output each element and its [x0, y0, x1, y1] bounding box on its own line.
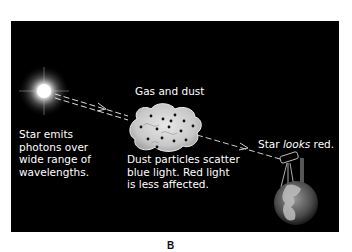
cloud-title: Gas and dust	[135, 85, 204, 98]
diagram-graphics	[11, 21, 339, 232]
earth-icon	[274, 181, 318, 225]
cloud-note-line: blue light. Red light	[127, 166, 240, 179]
diagram-panel: Star emits photons over wide range of wa…	[11, 21, 339, 232]
star-description: Star emits photons over wide range of wa…	[19, 128, 91, 178]
cloud-description: Dust particles scatter blue light. Red l…	[127, 153, 240, 191]
observer-suffix: red.	[310, 138, 334, 150]
cloud-note-line: Dust particles scatter	[127, 153, 240, 166]
observer-prefix: Star	[258, 138, 283, 150]
cloud-note-line: is less affected.	[127, 178, 240, 191]
star-label-line: wide range of	[19, 153, 91, 166]
star-label-line: photons over	[19, 141, 91, 154]
gas-dust-cloud-icon	[130, 104, 201, 152]
observer-emphasis: looks	[283, 138, 310, 150]
figure-caption: B	[167, 240, 174, 251]
star-label-line: Star emits	[19, 128, 91, 141]
star-icon	[18, 65, 70, 117]
star-label-line: wavelengths.	[19, 166, 91, 179]
observer-label: Star looks red.	[258, 138, 334, 151]
